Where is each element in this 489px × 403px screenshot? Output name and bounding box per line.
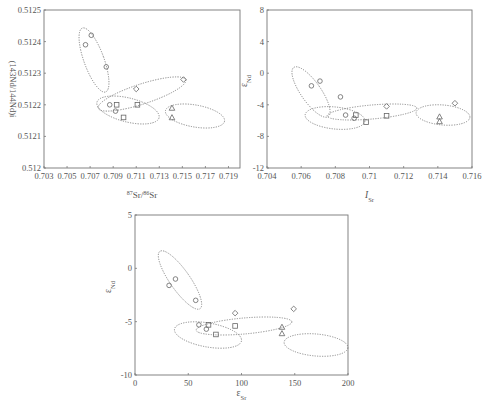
triangle-marker xyxy=(279,324,285,329)
x-tick-label: 0.715 xyxy=(173,171,192,181)
circle-marker xyxy=(167,283,172,288)
y-tick-label: 4 xyxy=(260,37,265,47)
y-tick-label: -12 xyxy=(253,163,264,173)
x-tick-label: 0.712 xyxy=(394,171,413,181)
x-tick-label: 0.705 xyxy=(57,171,76,181)
group-envelope xyxy=(73,25,115,96)
chart-canvas: 0.7030.7050.7070.7090.7110.7130.7150.717… xyxy=(0,0,489,403)
square-marker xyxy=(114,103,119,108)
triangle-marker xyxy=(169,115,175,120)
x-tick-label: 0.707 xyxy=(81,171,100,181)
circle-marker xyxy=(309,84,314,89)
diamond-marker xyxy=(232,310,238,316)
chart3-plot: 050100150200-10-505εSrεNd xyxy=(103,210,354,401)
y-tick-label: 0.5122 xyxy=(18,100,41,110)
x-tick-label: 0.71 xyxy=(362,171,377,181)
y-tick-label: 5 xyxy=(128,210,132,220)
x-tick-label: 200 xyxy=(342,378,355,388)
x-tick-label: 0.719 xyxy=(219,171,238,181)
plot-frame xyxy=(44,10,240,168)
x-tick-label: 0.706 xyxy=(292,171,311,181)
y-tick-label: -4 xyxy=(257,100,265,110)
triangle-marker xyxy=(279,331,285,336)
circle-marker xyxy=(352,116,357,121)
square-marker xyxy=(121,115,126,120)
y-tick-label: 0.5125 xyxy=(18,5,41,15)
group-envelope xyxy=(195,314,292,338)
circle-marker xyxy=(107,103,112,108)
x-tick-label: 0.717 xyxy=(196,171,215,181)
y-tick-label: 0.5124 xyxy=(18,37,42,47)
x-tick-label: 150 xyxy=(288,378,301,388)
triangle-marker xyxy=(169,105,175,110)
diamond-marker xyxy=(291,306,297,312)
y-tick-label: 0.512 xyxy=(22,163,41,173)
square-marker xyxy=(214,332,219,337)
group-envelope xyxy=(283,331,349,358)
group-envelope xyxy=(327,101,418,123)
circle-marker xyxy=(343,113,348,118)
group-envelope xyxy=(94,91,162,130)
x-tick-label: 100 xyxy=(235,378,248,388)
circle-marker xyxy=(338,95,343,100)
chart2-plot: 0.7040.7060.7080.710.7120.7140.716-12-8-… xyxy=(239,5,482,203)
y-tick-label: 0.5123 xyxy=(18,68,41,78)
y-tick-label: 0 xyxy=(128,263,132,273)
x-tick-label: 0.713 xyxy=(150,171,169,181)
diamond-marker xyxy=(133,86,139,92)
plot-frame xyxy=(267,10,472,168)
x-tick-label: 0.714 xyxy=(428,171,448,181)
chart1-plot: 0.7030.7050.7070.7090.7110.7130.7150.717… xyxy=(8,5,240,200)
x-tick-label: 0.708 xyxy=(326,171,345,181)
y-axis-label: (143Nd/144Nd)i xyxy=(8,61,18,118)
x-tick-label: 0.711 xyxy=(127,171,146,181)
group-envelope xyxy=(286,62,337,123)
y-tick-label: -10 xyxy=(121,370,132,380)
x-axis-label: 87Sr/86Sr xyxy=(127,190,158,200)
circle-marker xyxy=(318,79,323,84)
group-envelope xyxy=(152,246,209,315)
x-tick-label: 0.709 xyxy=(104,171,123,181)
y-tick-label: 8 xyxy=(260,5,264,15)
x-axis-label: εSr xyxy=(237,388,248,401)
y-axis-label: εNd xyxy=(239,74,252,87)
circle-marker xyxy=(193,298,198,303)
y-axis-label: εNd xyxy=(103,280,116,293)
y-tick-label: 0.5121 xyxy=(18,131,41,141)
y-tick-label: -8 xyxy=(257,131,264,141)
x-tick-label: 50 xyxy=(184,378,193,388)
circle-marker xyxy=(113,109,118,114)
triangle-marker xyxy=(437,119,443,124)
y-tick-label: -5 xyxy=(125,317,132,327)
circle-marker xyxy=(173,277,178,282)
circle-marker xyxy=(83,42,88,47)
group-envelope xyxy=(415,103,471,128)
circle-marker xyxy=(197,323,202,328)
plot-frame xyxy=(135,215,348,375)
x-tick-label: 0.716 xyxy=(462,171,481,181)
diamond-marker xyxy=(452,100,458,106)
x-axis-label: ISr xyxy=(364,190,375,203)
x-tick-label: 0 xyxy=(133,378,137,388)
y-tick-label: 0 xyxy=(260,68,264,78)
square-marker xyxy=(233,324,238,329)
